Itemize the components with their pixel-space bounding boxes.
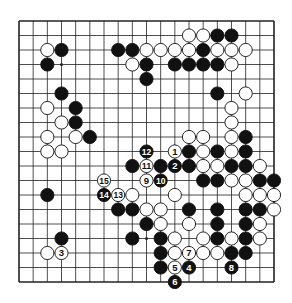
black-stone (41, 58, 54, 71)
black-stone (225, 159, 238, 172)
white-stone (126, 188, 139, 201)
white-stone (211, 43, 224, 56)
black-stone (197, 58, 210, 71)
white-stone (197, 130, 210, 143)
move-number-label: 9 (144, 175, 149, 186)
white-stone (41, 246, 54, 259)
black-stone (211, 145, 224, 158)
black-stone (69, 116, 82, 129)
black-stone (55, 232, 68, 245)
black-stone (197, 43, 210, 56)
black-stone (168, 58, 181, 71)
black-stone (211, 58, 224, 71)
black-stone (211, 232, 224, 245)
black-stone (239, 130, 252, 143)
black-stone (197, 174, 210, 187)
black-stone (211, 217, 224, 230)
go-board: 121112159101413375486 (0, 0, 292, 303)
white-stone (197, 159, 210, 172)
black-stone (140, 72, 153, 85)
white-stone (41, 145, 54, 158)
white-stone (267, 188, 280, 201)
black-stone (239, 159, 252, 172)
white-stone (253, 232, 266, 245)
black-stone (140, 58, 153, 71)
move-number-label: 4 (186, 262, 192, 273)
white-stone (225, 116, 238, 129)
white-stone (55, 145, 68, 158)
white-stone (225, 101, 238, 114)
black-stone (239, 246, 252, 259)
white-stone (140, 203, 153, 216)
white-stone (225, 130, 238, 143)
white-stone (168, 232, 181, 245)
black-stone (126, 159, 139, 172)
black-stone (253, 203, 266, 216)
black-stone (239, 232, 252, 245)
white-stone (41, 43, 54, 56)
white-stone-move-7: 7 (182, 246, 195, 259)
white-stone (168, 246, 181, 259)
white-stone (41, 130, 54, 143)
white-stone (182, 29, 195, 42)
black-stone (126, 203, 139, 216)
move-number-label: 12 (142, 148, 152, 157)
black-stone-move-14: 14 (97, 188, 110, 201)
black-stone-move-12: 12 (140, 145, 153, 158)
white-stone (225, 174, 238, 187)
move-number-label: 13 (113, 191, 123, 200)
white-stone (253, 188, 266, 201)
black-stone (55, 87, 68, 100)
black-stone (211, 29, 224, 42)
white-stone (154, 43, 167, 56)
white-stone (197, 232, 210, 245)
white-stone-move-1: 1 (168, 145, 181, 158)
white-stone (211, 246, 224, 259)
white-stone (154, 203, 167, 216)
move-number-label: 15 (99, 177, 109, 186)
white-stone (55, 116, 68, 129)
black-stone (126, 232, 139, 245)
black-stone-move-2: 2 (168, 159, 181, 172)
black-stone (239, 203, 252, 216)
white-stone (239, 174, 252, 187)
black-stone (112, 43, 125, 56)
white-stone (239, 43, 252, 56)
white-stone-move-11: 11 (140, 159, 153, 172)
black-stone (267, 174, 280, 187)
move-number-label: 10 (156, 177, 166, 186)
white-stone (197, 29, 210, 42)
move-number-label: 2 (172, 160, 177, 171)
white-stone (126, 58, 139, 71)
white-stone (239, 188, 252, 201)
black-stone (126, 43, 139, 56)
white-stone (69, 130, 82, 143)
black-stone (41, 188, 54, 201)
black-stone (225, 246, 238, 259)
black-stone (182, 145, 195, 158)
black-stone (182, 203, 195, 216)
white-stone (225, 232, 238, 245)
star-point (60, 63, 63, 66)
star-point (145, 237, 148, 240)
black-stone-move-8: 8 (225, 261, 238, 274)
white-stone (211, 159, 224, 172)
black-stone (154, 159, 167, 172)
white-stone (239, 87, 252, 100)
black-stone (55, 43, 68, 56)
black-stone (154, 232, 167, 245)
black-stone (112, 203, 125, 216)
black-stone (69, 101, 82, 114)
move-number-label: 3 (59, 247, 64, 258)
black-stone (239, 217, 252, 230)
white-stone-move-13: 13 (112, 188, 125, 201)
white-stone (182, 130, 195, 143)
white-stone-move-15: 15 (97, 174, 110, 187)
move-number-label: 1 (172, 146, 178, 157)
white-stone (197, 145, 210, 158)
white-stone (168, 188, 181, 201)
black-stone (154, 246, 167, 259)
black-stone (182, 58, 195, 71)
white-stone (154, 217, 167, 230)
black-stone (253, 174, 266, 187)
